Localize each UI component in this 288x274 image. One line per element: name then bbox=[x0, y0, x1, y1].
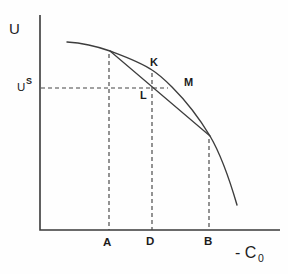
point-label-m: M bbox=[184, 76, 193, 88]
economics-diagram: U U S - C 0 K M L A D B bbox=[0, 0, 288, 274]
chord-line bbox=[110, 51, 210, 136]
x-tick-label-a: A bbox=[103, 236, 111, 248]
us-level-label: U bbox=[17, 81, 25, 93]
axes bbox=[40, 15, 280, 230]
y-axis-title: U bbox=[9, 20, 20, 37]
point-label-k: K bbox=[150, 56, 158, 68]
x-tick-label-b: B bbox=[204, 235, 212, 247]
x-tick-label-d: D bbox=[146, 235, 154, 247]
point-label-l: L bbox=[140, 89, 147, 101]
x-axis-title: - C bbox=[235, 244, 256, 261]
figure-canvas: U U S - C 0 K M L A D B bbox=[0, 0, 288, 274]
us-level-superscript: S bbox=[26, 76, 32, 86]
x-axis-title-subscript: 0 bbox=[258, 252, 264, 264]
